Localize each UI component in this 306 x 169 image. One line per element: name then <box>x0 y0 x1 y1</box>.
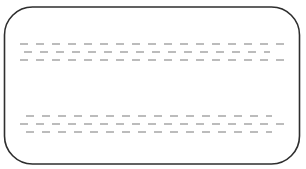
rounded-frame <box>5 7 300 164</box>
diagram-canvas <box>0 0 306 169</box>
